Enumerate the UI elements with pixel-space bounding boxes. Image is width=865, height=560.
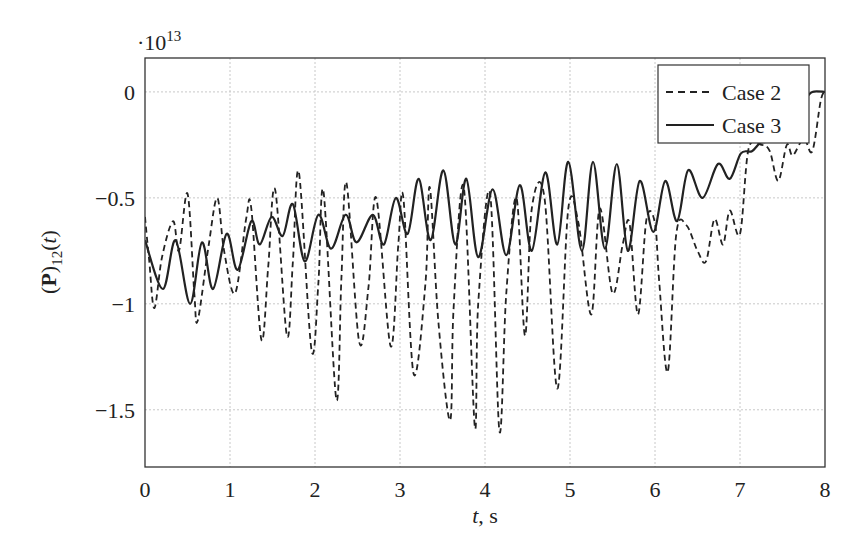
x-axis-label: t, s	[472, 503, 498, 528]
legend-label-case-2: Case 2	[722, 80, 781, 105]
legend: Case 2 Case 3	[658, 65, 809, 143]
x-tick-label: 3	[395, 477, 406, 502]
y-tick-label: 0	[124, 80, 135, 105]
y-axis-ticks: 0−0.5−1−1.5	[95, 80, 135, 423]
x-axis-ticks: 012345678	[140, 477, 831, 502]
y-tick-label: −1.5	[95, 398, 135, 423]
line-chart: 012345678 0−0.5−1−1.5 ·1013 (P)12(t) t, …	[0, 0, 865, 560]
y-tick-label: −1	[112, 292, 135, 317]
x-tick-label: 1	[225, 477, 236, 502]
y-tick-label: −0.5	[95, 186, 135, 211]
y-axis-label: (P)12(t)	[36, 230, 65, 294]
x-tick-label: 2	[310, 477, 321, 502]
y-axis-multiplier: ·1013	[137, 28, 181, 55]
x-tick-label: 8	[820, 477, 831, 502]
x-tick-label: 6	[650, 477, 661, 502]
x-tick-label: 7	[735, 477, 746, 502]
x-tick-label: 0	[140, 477, 151, 502]
x-tick-label: 5	[565, 477, 576, 502]
legend-label-case-3: Case 3	[722, 113, 781, 138]
x-tick-label: 4	[480, 477, 491, 502]
